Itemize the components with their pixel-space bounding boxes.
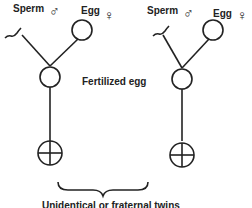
caption: Unidentical or fraternal twins [42,200,180,208]
left-fertilized-egg-icon [40,67,60,87]
right-sperm-icon [153,26,169,36]
right-egg-line [182,39,209,68]
right-sperm-label: Sperm [147,5,178,16]
left-egg-label: Egg [81,5,100,16]
left-sperm-label: Sperm [13,3,44,14]
left-egg-line [50,39,78,66]
right-egg-label: Egg [213,8,232,19]
fertilized-egg-label: Fertilized egg [82,76,146,87]
left-male-symbol-icon: ♂ [49,4,60,18]
left-sperm-line [22,35,50,66]
left-egg-icon [72,20,92,40]
right-fertilized-egg-icon [172,69,192,89]
right-egg-icon [203,20,223,40]
brace-icon [58,182,148,196]
right-female-symbol-icon: ♀ [237,8,248,22]
left-female-symbol-icon: ♀ [104,8,115,22]
right-male-symbol-icon: ♂ [183,6,194,20]
twins-diagram [0,0,252,208]
left-sperm-icon [5,28,21,38]
right-sperm-line [163,35,182,68]
